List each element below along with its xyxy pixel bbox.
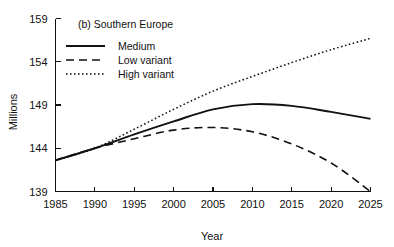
x-axis-title: Year xyxy=(201,230,224,242)
y-axis-title: Millions xyxy=(7,93,19,130)
panel-title: (b) Southern Europe xyxy=(78,18,173,30)
x-tick-label: 2025 xyxy=(358,198,382,210)
y-tick-label: 149 xyxy=(29,99,47,111)
x-tick-label: 2020 xyxy=(319,198,343,210)
x-tick-label: 1990 xyxy=(83,198,107,210)
series-line-high-variant xyxy=(56,38,371,160)
x-tick-label: 1985 xyxy=(43,198,67,210)
legend-label-low-variant: Low variant xyxy=(118,54,172,66)
y-tick-label: 154 xyxy=(29,56,47,68)
chart-legend: Medium Low variant High variant xyxy=(66,40,174,80)
series-line-medium xyxy=(56,104,371,160)
y-tick-label: 139 xyxy=(29,186,47,198)
x-tick-label: 2005 xyxy=(201,198,225,210)
chart-figure: 139144149154159 198519901995200020052010… xyxy=(0,0,394,247)
x-tick-label: 2015 xyxy=(280,198,304,210)
axis-tick-marks xyxy=(56,19,371,192)
y-tick-label: 159 xyxy=(29,13,47,25)
x-tick-label: 2000 xyxy=(161,198,185,210)
southern-europe-population-chart: 139144149154159 198519901995200020052010… xyxy=(0,0,394,247)
axis-frame xyxy=(56,19,371,192)
x-tick-label: 2010 xyxy=(240,198,264,210)
legend-label-medium: Medium xyxy=(118,40,156,52)
series-line-low-variant xyxy=(56,127,371,191)
legend-label-high-variant: High variant xyxy=(118,68,174,80)
x-axis-tick-labels: 198519901995200020052010201520202025 xyxy=(43,198,382,210)
y-tick-label: 144 xyxy=(29,142,47,154)
x-tick-label: 1995 xyxy=(122,198,146,210)
y-axis-tick-labels: 139144149154159 xyxy=(29,13,47,198)
